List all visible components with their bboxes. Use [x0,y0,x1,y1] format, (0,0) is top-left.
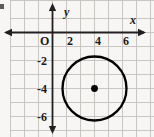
x-tick-label-2: 2 [67,34,73,48]
circle-center-point [91,85,98,92]
corner-artifact-mark [0,4,4,9]
coordinate-plane-figure: y x O 2 4 6 -2 -4 -6 [0,0,154,137]
x-tick-label-4: 4 [95,34,101,48]
origin-label: O [40,34,49,48]
y-tick-label-minus6: -6 [37,110,47,124]
graph-svg: y x O 2 4 6 -2 -4 -6 [0,0,154,137]
y-tick-label-minus2: -2 [37,54,47,68]
x-axis-label: x [129,13,136,27]
y-axis-label: y [62,5,70,19]
x-tick-label-6: 6 [123,34,129,48]
y-tick-label-minus4: -4 [37,82,47,96]
